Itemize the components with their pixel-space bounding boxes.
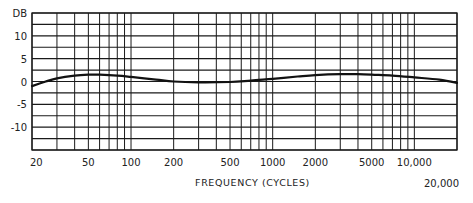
x-tick-label: 1000 — [260, 157, 285, 168]
y-tick-label: -10 — [11, 122, 27, 133]
y-tick-label: 10 — [14, 31, 27, 42]
x-tick-label: 20,000 — [424, 178, 459, 189]
y-tick-label: -5 — [17, 99, 27, 110]
y-tick-label: 5 — [21, 54, 27, 65]
x-tick-label: 50 — [82, 157, 95, 168]
x-tick-label: 10,000 — [397, 157, 432, 168]
y-axis-labels: DB1050-5-10 — [11, 8, 27, 133]
response-curve — [32, 74, 457, 86]
x-axis-title: FREQUENCY (CYCLES) — [195, 177, 310, 188]
x-tick-label: 2000 — [303, 157, 328, 168]
y-tick-label: DB — [12, 8, 27, 19]
y-tick-label: 0 — [21, 77, 27, 88]
x-tick-label: 100 — [121, 157, 140, 168]
x-tick-label: 5000 — [359, 157, 384, 168]
frequency-response-chart: DB1050-5-10 205010020050010002000500010,… — [0, 0, 473, 203]
x-tick-label: 200 — [164, 157, 183, 168]
x-tick-label: 500 — [220, 157, 239, 168]
x-tick-label: 20 — [30, 157, 43, 168]
